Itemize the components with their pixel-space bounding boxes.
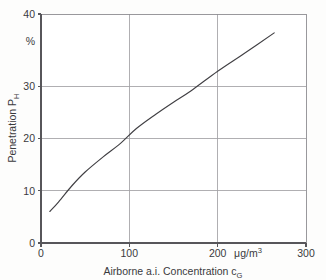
y-tick-label-40: 40 (23, 8, 35, 20)
y-tick-label-30: 30 (23, 80, 35, 92)
x-axis-tick-labels: 0 100 200 300 (38, 247, 315, 259)
line-chart: 0 10 20 30 40 % 0 100 200 300 μg/m3 Airb… (0, 0, 326, 280)
y-axis-title-subscript: H (12, 93, 21, 98)
x-axis-title: Airborne a.i. Concentration cG (104, 265, 243, 280)
y-axis-title-main: Penetration P (6, 99, 18, 163)
figure-container: 0 10 20 30 40 % 0 100 200 300 μg/m3 Airb… (0, 0, 326, 280)
x-axis-unit-main: μg/m (234, 247, 258, 259)
x-axis-title-main: Airborne a.i. Concentration c (104, 265, 237, 277)
x-tick-label-300: 300 (297, 247, 315, 259)
y-axis-tick-labels: 0 10 20 30 40 % (23, 8, 35, 249)
x-axis-unit-superscript: 3 (258, 246, 262, 255)
y-tick-label-10: 10 (23, 185, 35, 197)
y-axis-unit-label: % (26, 35, 35, 47)
x-axis-unit-label: μg/m3 (234, 246, 262, 259)
y-tick-label-20: 20 (23, 132, 35, 144)
y-tick-label-0: 0 (29, 237, 35, 249)
x-axis-title-subscript: G (237, 271, 243, 280)
plot-background (41, 14, 306, 243)
y-axis-title: Penetration PH (6, 93, 21, 162)
x-tick-label-200: 200 (209, 247, 227, 259)
x-tick-label-0: 0 (38, 247, 44, 259)
x-tick-label-100: 100 (121, 247, 139, 259)
